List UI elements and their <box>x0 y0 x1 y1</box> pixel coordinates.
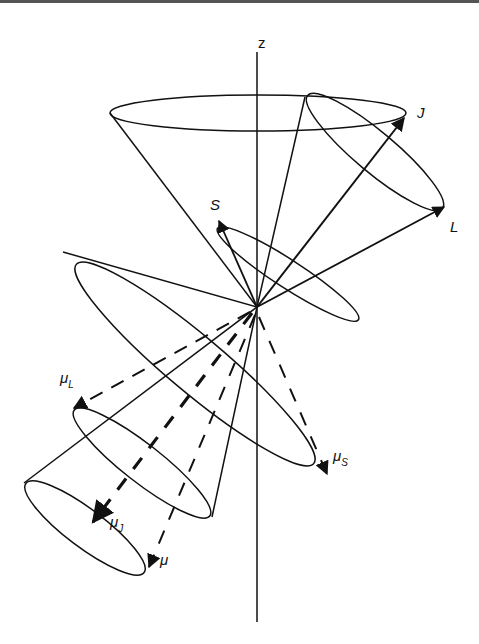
label-mu-L: μL <box>59 369 74 390</box>
vector-model-diagram: z J L S μL μS μJ μ <box>0 0 479 644</box>
label-S: S <box>210 196 220 213</box>
upper-cone-left-edge <box>110 113 257 307</box>
mu-s-cone-edge <box>63 252 257 307</box>
vector-mu <box>149 315 255 567</box>
s-precession-ellipse <box>210 217 366 332</box>
vector-mu-J <box>93 313 252 522</box>
vector-L <box>257 207 444 307</box>
vector-mu-L <box>74 312 250 408</box>
label-mu-S: μS <box>332 447 348 468</box>
upper-cone-ellipse <box>110 95 406 131</box>
label-mu-J: μJ <box>109 513 124 534</box>
label-L: L <box>450 218 458 235</box>
mu-l-cone-ellipse <box>63 395 222 531</box>
z-axis-label: z <box>258 34 266 51</box>
mu-s-cone-ellipse <box>58 243 331 485</box>
label-mu: μ <box>159 551 168 568</box>
mu-j-cone-ellipse <box>14 468 155 587</box>
label-J: J <box>416 104 425 121</box>
